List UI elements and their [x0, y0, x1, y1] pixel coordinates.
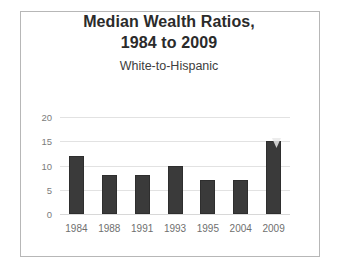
y-tick-label: 10 [41, 160, 52, 171]
x-axis: 1984 1988 1991 1993 1995 2004 2009 [60, 218, 290, 236]
x-slot: 1988 [93, 218, 126, 236]
y-axis: 20 15 10 5 0 [30, 117, 52, 214]
bar [135, 175, 150, 214]
y-tick-label: 20 [41, 112, 52, 123]
plot-grid [60, 117, 290, 214]
chart-title-block: Median Wealth Ratios, 1984 to 2009 White… [0, 11, 338, 77]
x-tick-label: 1988 [98, 223, 120, 234]
x-slot: 2004 [224, 218, 257, 236]
x-slot: 1991 [126, 218, 159, 236]
bar [102, 175, 117, 214]
bar-slot [93, 117, 126, 214]
x-slot: 1984 [60, 218, 93, 236]
bar [233, 180, 248, 214]
x-slot: 2009 [257, 218, 290, 236]
x-tick-label: 1993 [164, 223, 186, 234]
bar [266, 141, 281, 214]
x-slot: 1993 [159, 218, 192, 236]
bar-slot [257, 117, 290, 214]
chart-title-line-2: 1984 to 2009 [0, 32, 338, 53]
plot-area: 20 15 10 5 0 1984 1988 1991 1993 1995 20… [30, 117, 290, 242]
axis-baseline [60, 214, 290, 215]
y-tick-label: 15 [41, 136, 52, 147]
x-tick-label: 2009 [262, 223, 284, 234]
x-tick-label: 2004 [230, 223, 252, 234]
y-tick-label: 0 [47, 209, 52, 220]
x-slot: 1995 [191, 218, 224, 236]
y-tick-label: 5 [47, 184, 52, 195]
x-tick-label: 1995 [197, 223, 219, 234]
bar-slot [159, 117, 192, 214]
bar [168, 166, 183, 215]
bar-slot [126, 117, 159, 214]
bar-slot [191, 117, 224, 214]
chart-subtitle: White-to-Hispanic [0, 56, 338, 77]
x-tick-label: 1991 [131, 223, 153, 234]
x-tick-label: 1984 [65, 223, 87, 234]
bar [69, 156, 84, 214]
bar-series [60, 117, 290, 214]
chart-title-line-1: Median Wealth Ratios, [0, 11, 338, 32]
bar-slot [224, 117, 257, 214]
bar [200, 180, 215, 214]
bar-slot [60, 117, 93, 214]
